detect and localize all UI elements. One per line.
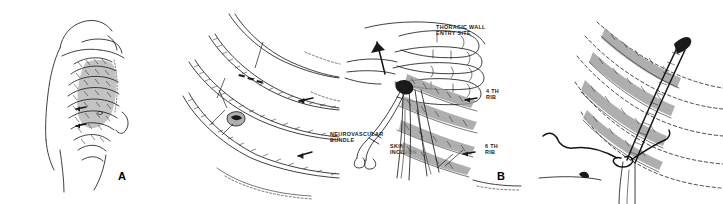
panel-a-illustration: [0, 0, 181, 204]
panel-d-illustration: [531, 0, 723, 204]
panel-b: THORACIC WALLENTRY SITE 4 thRIB NEUROVAS…: [181, 0, 341, 204]
panel-a: A: [0, 0, 181, 204]
panel-d: D: [531, 0, 723, 204]
panel-b-illustration: [181, 0, 341, 204]
panel-c: 4 thRIB 6 thRIB CHESTTUBE C: [341, 0, 531, 204]
panel-c-illustration: [341, 0, 531, 204]
panel-letter-a: A: [118, 170, 126, 182]
chest-tube-figure: A: [0, 0, 723, 204]
